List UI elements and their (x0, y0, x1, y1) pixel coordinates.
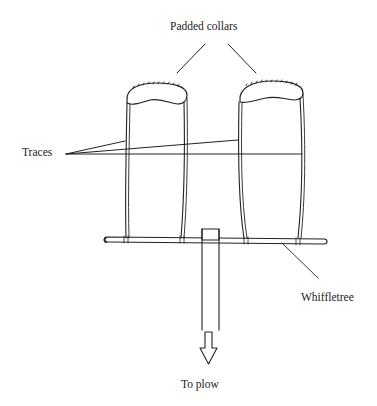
whiffletree-leader-line (282, 243, 318, 278)
label-whiffletree: Whiffletree (301, 292, 354, 304)
label-traces: Traces (22, 147, 52, 159)
harness-diagram (0, 0, 377, 406)
label-padded-collars: Padded collars (170, 21, 237, 33)
arrow-down-icon (200, 332, 217, 364)
label-to-plow: To plow (181, 379, 219, 391)
center-hitch-post (202, 229, 219, 330)
collars-leader-lines (177, 44, 256, 73)
right-padded-collar (239, 80, 305, 238)
left-padded-collar (126, 82, 188, 238)
